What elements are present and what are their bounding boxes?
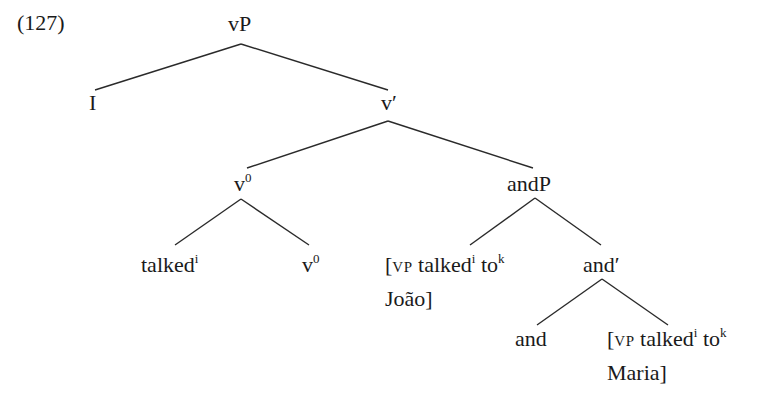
talked-index: i xyxy=(195,251,199,266)
word-to: to xyxy=(697,326,720,351)
node-vP: vP xyxy=(228,11,251,37)
node-andP: andP xyxy=(507,171,551,197)
leaf-and: and xyxy=(515,326,547,352)
example-number: (127) xyxy=(17,10,65,36)
talked-label: talked xyxy=(141,252,195,277)
edge-and-bar-conjunct2 xyxy=(602,279,668,325)
conjunct-maria: [VP talkedi tok Maria] xyxy=(607,326,727,386)
conjunct-joao-line2: João] xyxy=(385,286,505,312)
prime-mark: ′ xyxy=(392,90,397,115)
edge-vP-I xyxy=(95,44,241,90)
edge-and-bar-and xyxy=(537,279,602,325)
vp-subscript: VP xyxy=(392,259,412,275)
v0-label: v xyxy=(234,171,245,196)
conjunct-maria-line1: [VP talkedi tok xyxy=(607,326,727,354)
word-to: to xyxy=(475,252,498,277)
conjunct-joao: [VP talkedi tok João] xyxy=(385,252,505,312)
edge-v-bar-andP xyxy=(388,121,533,168)
and-bar-label: and xyxy=(583,252,615,277)
edge-v0-v0-leaf xyxy=(241,199,309,245)
v-bar-label: v xyxy=(381,90,392,115)
v0-leaf-label: v xyxy=(302,252,313,277)
vp-subscript: VP xyxy=(614,333,634,349)
edge-v-bar-v0 xyxy=(247,121,388,168)
conjunct-joao-line1: [VP talkedi tok xyxy=(385,252,505,280)
edge-v0-talked xyxy=(175,199,241,245)
v0-leaf-superscript: 0 xyxy=(313,251,320,266)
edge-andP-and-bar xyxy=(535,198,601,245)
node-I: I xyxy=(89,90,96,116)
index-k: k xyxy=(498,251,505,266)
word-talked: talked xyxy=(635,326,694,351)
prime-mark: ′ xyxy=(615,252,620,277)
leaf-v0: v0 xyxy=(302,252,320,278)
edge-andP-conjunct1 xyxy=(470,198,535,245)
word-talked: talked xyxy=(413,252,472,277)
node-v-bar: v′ xyxy=(381,90,397,116)
leaf-talked: talkedi xyxy=(141,252,198,278)
node-v0: v0 xyxy=(234,171,252,197)
edge-vP-v-bar xyxy=(241,44,388,90)
node-and-bar: and′ xyxy=(583,252,620,278)
index-k: k xyxy=(720,325,727,340)
conjunct-maria-line2: Maria] xyxy=(607,360,727,386)
v0-superscript: 0 xyxy=(245,170,252,185)
